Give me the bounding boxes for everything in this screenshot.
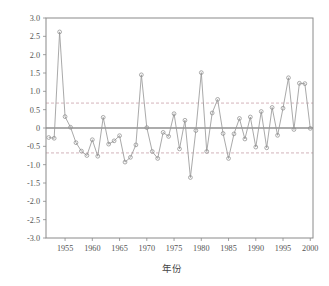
y-tick-label: 2.0 [30,51,40,60]
y-tick-label: -1.0 [27,161,40,170]
y-tick-label: 0 [36,124,40,133]
x-tick-label: 1965 [111,244,127,253]
y-tick-label: -2.0 [27,197,40,206]
y-tick-label: -3.0 [27,234,40,243]
y-tick-label: 3.0 [30,14,40,23]
y-tick-label: 1.0 [30,87,40,96]
x-tick-label: 1995 [275,244,291,253]
x-tick-label: 1980 [193,244,209,253]
y-tick-label: 1.5 [30,69,40,78]
x-tick-label: 1985 [220,244,236,253]
y-tick-label: -2.5 [27,216,40,225]
x-tick-label: 1960 [84,244,100,253]
chart-figure: 1955196019651970197519801985199019952000… [0,0,329,286]
y-tick-label: -0.5 [27,142,40,151]
x-tick-label: 1975 [166,244,182,253]
timeseries-line-chart: 1955196019651970197519801985199019952000… [0,0,329,286]
x-axis-title: 年份 [162,263,182,274]
x-tick-label: 2000 [302,244,318,253]
y-tick-label: -1.5 [27,179,40,188]
y-tick-label: 2.5 [30,32,40,41]
x-tick-label: 1990 [248,244,264,253]
x-tick-label: 1970 [139,244,155,253]
x-tick-label: 1955 [57,244,73,253]
y-tick-label: 0.5 [30,106,40,115]
